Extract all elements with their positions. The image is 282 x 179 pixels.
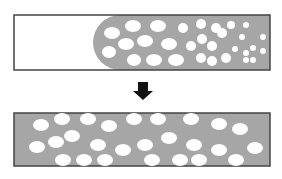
bubble: [243, 22, 249, 28]
bubble: [260, 34, 266, 40]
bubble: [239, 34, 245, 40]
bubble: [161, 132, 177, 144]
bubble: [64, 130, 80, 142]
bubble: [101, 120, 117, 132]
bubble: [150, 113, 166, 125]
bubble: [196, 19, 206, 29]
bubble: [196, 53, 206, 63]
bubble: [126, 113, 142, 125]
bubble: [243, 57, 249, 63]
bubble: [183, 113, 199, 125]
bubble: [104, 27, 120, 39]
bubble: [118, 38, 134, 50]
bubble: [127, 54, 141, 66]
bubble: [207, 56, 217, 66]
bubble: [161, 38, 177, 50]
bubble: [197, 34, 207, 44]
bubble: [168, 54, 184, 66]
bubble: [186, 139, 202, 151]
bubble: [33, 119, 49, 131]
bubble: [80, 113, 96, 125]
bubble: [97, 154, 113, 166]
bubble: [221, 53, 231, 63]
bubble: [211, 118, 227, 130]
bubble: [260, 48, 266, 54]
bottom-panel: [14, 113, 270, 166]
bubble: [172, 154, 188, 166]
bubble: [186, 41, 196, 51]
bubble: [191, 154, 207, 166]
bubble: [144, 154, 160, 166]
down-arrow-icon: [133, 82, 153, 100]
bubble: [247, 142, 263, 154]
bubble: [217, 28, 227, 38]
bubble: [232, 46, 238, 52]
bubble: [232, 123, 248, 135]
bubble: [150, 20, 166, 32]
bubble: [146, 54, 162, 66]
top-panel: [14, 15, 270, 70]
bubble: [228, 154, 244, 166]
bubble: [243, 50, 249, 56]
bubble: [137, 35, 153, 47]
bubble: [250, 45, 256, 51]
bubble: [115, 144, 131, 156]
bubble: [48, 136, 64, 148]
bubble: [178, 23, 188, 33]
bubble: [29, 141, 45, 153]
bubble: [227, 21, 235, 29]
bubble: [211, 144, 227, 156]
bubble: [102, 46, 116, 58]
bubble: [250, 57, 256, 63]
bubble: [76, 154, 92, 166]
bubble: [207, 41, 217, 51]
bubble: [125, 20, 141, 32]
diagram-canvas: [0, 0, 282, 179]
bubble: [137, 139, 153, 151]
bubble: [54, 113, 70, 125]
bubble: [55, 154, 71, 166]
bubble: [90, 139, 106, 151]
